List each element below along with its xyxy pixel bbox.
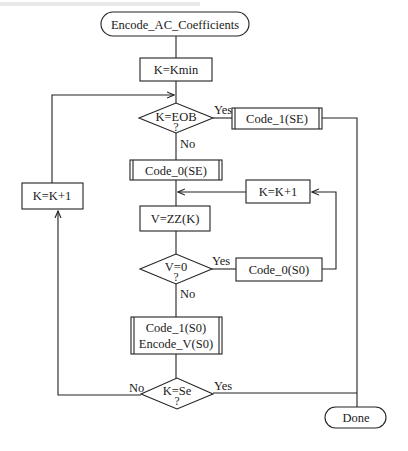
- code0-s0-label: Code_0(S0): [249, 263, 309, 277]
- inc-right-label: K=K+1: [259, 185, 297, 199]
- se-no-loop-arrow: [58, 211, 141, 395]
- eob-no-label: No: [180, 137, 195, 151]
- init-kmin-box: K=Kmin: [140, 58, 212, 81]
- code0-se-label: Code_0(SE): [145, 164, 207, 178]
- code1-s0-encode-v-box: Code_1(S0) Encode_V(S0): [131, 317, 222, 354]
- code0-s0-box: Code_0(S0): [236, 258, 322, 281]
- start-label: Encode_AC_Coefficients: [111, 18, 239, 32]
- code1-s0-label: Code_1(S0): [146, 321, 206, 335]
- se-yes-label: Yes: [214, 379, 232, 393]
- eob-to-done-line: [322, 118, 357, 407]
- vzz-box: V=ZZ(K): [140, 206, 210, 231]
- code1-se-box: Code_1(SE): [232, 108, 322, 129]
- increment-k-left-box: K=K+1: [22, 183, 83, 209]
- inc-left-label: K=K+1: [33, 189, 71, 203]
- decision-v-zero: V=0 ?: [140, 254, 212, 284]
- se-no-label: No: [129, 381, 144, 395]
- decision-v0-q: ?: [173, 271, 178, 283]
- code0-se-box: Code_0(SE): [130, 160, 222, 180]
- flowchart-canvas: Encode_AC_Coefficients K=Kmin K=EOB ? Ye…: [0, 0, 408, 451]
- encode-v-label: Encode_V(S0): [139, 337, 213, 351]
- code1-se-label: Code_1(SE): [246, 112, 308, 126]
- init-label: K=Kmin: [154, 63, 199, 77]
- eob-yes-label: Yes: [214, 103, 232, 117]
- decision-k-eob: K=EOB ?: [139, 103, 213, 133]
- increment-k-right-box: K=K+1: [246, 180, 310, 203]
- start-terminal: Encode_AC_Coefficients: [101, 12, 249, 36]
- vzz-label: V=ZZ(K): [151, 212, 200, 226]
- v0-yes-label: Yes: [212, 254, 230, 268]
- done-terminal: Done: [325, 407, 386, 428]
- decision-k-se: K=Se ?: [141, 378, 213, 409]
- decision-se-q: ?: [174, 395, 179, 407]
- v0-no-label: No: [180, 287, 195, 301]
- done-label: Done: [342, 411, 370, 425]
- decision-eob-q: ?: [173, 121, 178, 133]
